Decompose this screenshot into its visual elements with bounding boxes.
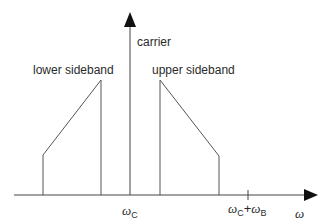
- omega-c-plus-omega-b-label: ωC+ωB: [228, 202, 266, 215]
- lower-sideband-label: lower sideband: [33, 64, 114, 76]
- omega-symbol: ω: [122, 203, 131, 218]
- frequency-axis-arrowhead: [304, 189, 318, 201]
- carrier-arrowhead: [124, 12, 136, 27]
- subscript-b: B: [260, 208, 266, 218]
- omega-c-label: ωC: [122, 204, 138, 217]
- subscript-c: C: [237, 208, 244, 218]
- upper-sideband-shape: [160, 80, 219, 195]
- upper-sideband-label: upper sideband: [152, 64, 235, 76]
- carrier-label: carrier: [137, 36, 171, 48]
- omega-symbol: ω: [228, 201, 237, 216]
- subscript-c: C: [131, 210, 138, 220]
- spectrum-diagram: [0, 0, 333, 224]
- x-axis-label: ω: [295, 207, 304, 220]
- lower-sideband-shape: [43, 80, 101, 195]
